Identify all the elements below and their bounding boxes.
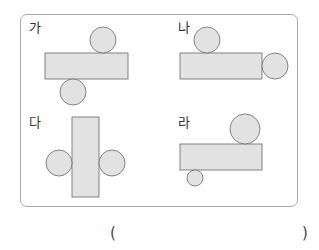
answer-paren-open: ( [110,224,116,242]
net-da-right-circle [99,150,125,176]
answer-paren-close: ) [302,224,308,242]
net-ga-top-circle [90,27,116,53]
net-da [46,117,125,197]
net-ra-large-circle [230,114,260,144]
net-ra-small-circle [187,170,203,186]
net-ga-rectangle [45,53,128,79]
net-na-rectangle [180,53,262,79]
net-na [180,27,288,79]
net-da-left-circle [46,150,72,176]
net-ga [45,27,128,105]
net-da-rectangle [72,117,99,197]
net-na-top-circle [194,27,220,53]
net-na-right-circle [262,53,288,79]
net-ga-bottom-circle [60,79,86,105]
net-ra [180,114,262,186]
cylinder-net-figures [0,0,319,250]
net-ra-rectangle [180,144,262,170]
